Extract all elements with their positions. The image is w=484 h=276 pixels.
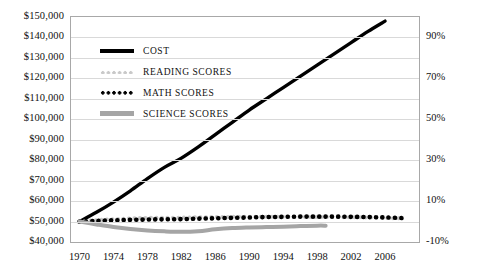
gridline (71, 140, 419, 141)
chart-container: $40,000$50,000$60,000$70,000$80,000$90,0… (0, 0, 484, 276)
y-axis-tick-label: $140,000 (2, 30, 64, 41)
y2-axis-tick-label: 30% (426, 153, 480, 164)
y2-axis-tick-label: 10% (426, 194, 480, 205)
legend-item-science: SCIENCE SCORES (100, 103, 340, 124)
y-axis-tick-label: $100,000 (2, 112, 64, 123)
gridline (71, 37, 419, 38)
chart-legend: COST READING SCORES MATH SCORES SCIENCE … (100, 40, 340, 124)
y-axis-tick-label: $40,000 (2, 235, 64, 246)
y-axis-tick-label: $120,000 (2, 71, 64, 82)
gridline (71, 201, 419, 202)
legend-item-cost: COST (100, 40, 340, 61)
y-axis-tick-label: $110,000 (2, 92, 64, 103)
legend-swatch-science-icon (100, 111, 134, 116)
y-axis-tick-label: $50,000 (2, 215, 64, 226)
legend-swatch-reading-icon (100, 70, 134, 74)
y-axis-tick-label: $150,000 (2, 10, 64, 21)
legend-swatch-cost-icon (100, 49, 134, 53)
gridline (71, 160, 419, 161)
legend-label-math: MATH SCORES (143, 88, 214, 98)
legend-swatch-math-icon (100, 90, 134, 95)
y2-axis-tick-label: 70% (426, 71, 480, 82)
y-axis-tick-label: $80,000 (2, 153, 64, 164)
gridline (71, 222, 419, 223)
series-line-science-scores (79, 222, 325, 232)
gridline (71, 181, 419, 182)
y-axis-tick-label: $70,000 (2, 174, 64, 185)
legend-label-science: SCIENCE SCORES (143, 109, 229, 119)
y-axis-tick-label: $130,000 (2, 51, 64, 62)
y-axis-tick-label: $60,000 (2, 194, 64, 205)
y-axis-tick-label: $90,000 (2, 133, 64, 144)
x-axis-tick-label: 2006 (362, 251, 408, 262)
legend-label-reading: READING SCORES (143, 67, 232, 77)
legend-label-cost: COST (143, 46, 169, 56)
y2-axis-tick-label: -10% (426, 235, 480, 246)
legend-item-reading: READING SCORES (100, 61, 340, 82)
y2-axis-tick-label: 90% (426, 30, 480, 41)
legend-item-math: MATH SCORES (100, 82, 340, 103)
y2-axis-tick-label: 50% (426, 112, 480, 123)
